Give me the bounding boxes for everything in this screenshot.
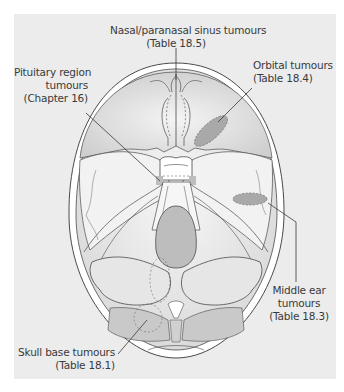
label-middle-ear-line2: tumours [268,297,330,310]
label-middle-ear-tumours: Middle ear tumours (Table 18.3) [268,284,330,323]
label-orbital-tumours: Orbital tumours (Table 18.4) [253,59,337,85]
label-orbital-line2: (Table 18.4) [253,72,337,85]
label-pituitary-line2: tumours [14,79,88,92]
label-skull-base-tumours: Skull base tumours (Table 18.1) [18,346,115,372]
label-middle-ear-line1: Middle ear [268,284,330,297]
label-pituitary-region-tumours: Pituitary region tumours (Chapter 16) [14,66,88,105]
label-middle-ear-line3: (Table 18.3) [268,310,330,323]
foramen-magnum [156,206,197,268]
label-skull-base-line2: (Table 18.1) [18,359,115,372]
label-orbital-line1: Orbital tumours [253,59,337,72]
label-pituitary-line1: Pituitary region [14,66,88,79]
label-skull-base-line1: Skull base tumours [18,346,115,359]
middle-ear-tumour-region [233,193,267,205]
anterior-fossa [80,72,272,158]
label-nasal-line2: (Table 18.5) [110,37,242,50]
label-nasal-sinus-tumours: Nasal/paranasal sinus tumours (Table 18.… [110,24,242,50]
label-pituitary-line3: (Chapter 16) [14,92,88,105]
label-nasal-line1: Nasal/paranasal sinus tumours [110,24,242,37]
